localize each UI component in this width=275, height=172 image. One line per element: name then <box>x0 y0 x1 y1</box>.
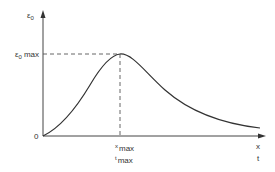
diagram-canvas: ε0 ε0max 0 xmax tmax x t <box>0 0 275 172</box>
x-max-label: xmax <box>115 143 134 153</box>
x-axis-label: x <box>256 142 260 151</box>
y-axis-label: ε0 <box>27 11 35 21</box>
t-axis-label: t <box>257 154 260 163</box>
x-axis-arrow-icon <box>258 134 266 139</box>
response-curve <box>43 54 260 136</box>
y-max-label: ε0max <box>15 50 39 60</box>
t-max-label: tmax <box>115 155 133 165</box>
origin-label: 0 <box>34 132 39 141</box>
y-axis-arrow-icon <box>41 10 46 18</box>
